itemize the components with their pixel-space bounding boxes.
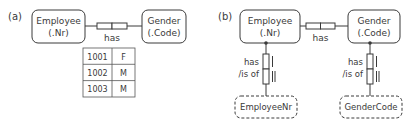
cell-gender-code: F	[121, 53, 126, 62]
role-box[interactable]	[367, 69, 373, 84]
table-row: 1003 M	[87, 85, 127, 94]
uniqueness-constraint-icon	[377, 56, 380, 82]
table-row: 1001 F	[87, 53, 126, 62]
cell-gender-code: M	[120, 69, 127, 78]
value-type-employee-nr[interactable]: EmployeeNr	[235, 96, 297, 118]
orm-diagram: (a) Employee (.Nr) has Gender (.Code)	[0, 0, 411, 125]
table-row: 1002 M	[87, 69, 127, 78]
value-type-name: EmployeeNr	[240, 102, 292, 112]
entity-employee[interactable]: Employee (.Nr)	[240, 10, 300, 43]
panel-b: (b) Employee (.Nr) has Gender (.Code)	[218, 10, 402, 118]
panel-a: (a) Employee (.Nr) has Gender (.Code)	[8, 10, 186, 97]
role-box[interactable]	[97, 23, 112, 29]
entity-gender[interactable]: Gender (.Code)	[142, 10, 186, 43]
cell-employee-nr: 1001	[87, 53, 107, 62]
panel-b-label: (b)	[218, 11, 232, 22]
fact-reading: has	[104, 33, 120, 43]
entity-gender[interactable]: Gender (.Code)	[348, 10, 400, 43]
cell-employee-nr: 1003	[87, 85, 107, 94]
role-box[interactable]	[321, 23, 336, 29]
panel-a-label: (a)	[8, 11, 22, 22]
entity-ref-mode: (.Nr)	[260, 28, 280, 38]
fact-reading: has	[313, 33, 329, 43]
reference-fact-employee-nr[interactable]: has /is of	[238, 41, 275, 96]
role-box[interactable]	[263, 69, 269, 84]
value-type-gender-code[interactable]: GenderCode	[340, 96, 402, 118]
fact-reading-inverse: /is of	[342, 69, 364, 79]
cell-employee-nr: 1002	[87, 69, 107, 78]
role-box[interactable]	[112, 23, 127, 29]
entity-employee[interactable]: Employee (.Nr)	[32, 10, 85, 43]
population-table: 1001 F 1002 M 1003 M	[83, 48, 135, 97]
uniqueness-constraint-icon	[273, 56, 276, 82]
fact-reading-inverse: /is of	[238, 69, 260, 79]
entity-name: Employee	[248, 16, 293, 26]
cell-gender-code: M	[120, 85, 127, 94]
value-type-name: GenderCode	[344, 102, 397, 112]
entity-name: Gender	[357, 16, 390, 26]
fact-type-has[interactable]: has	[97, 23, 127, 43]
entity-ref-mode: (.Nr)	[48, 28, 68, 38]
reference-fact-gender-code[interactable]: has /is of	[342, 41, 379, 96]
entity-ref-mode: (.Code)	[358, 28, 391, 38]
fact-reading: has	[244, 57, 260, 67]
entity-ref-mode: (.Code)	[148, 28, 181, 38]
role-box[interactable]	[367, 54, 373, 69]
role-box[interactable]	[263, 54, 269, 69]
role-box[interactable]	[306, 23, 321, 29]
fact-type-has[interactable]: has	[306, 23, 335, 43]
fact-reading: has	[348, 57, 364, 67]
entity-name: Employee	[36, 16, 81, 26]
entity-name: Gender	[147, 16, 180, 26]
